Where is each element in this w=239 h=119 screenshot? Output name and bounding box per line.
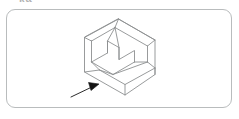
- viewing-direction-arrow: [71, 83, 99, 98]
- rim-thickness-left: [85, 38, 92, 42]
- screenshot-root: — ка—: [0, 0, 239, 119]
- lower-sloped-face-crest: [113, 62, 148, 75]
- inner-cavity-zigzag: [92, 41, 135, 62]
- front-bottom-face-edge-left: [85, 70, 100, 72]
- isometric-figure: [0, 0, 239, 119]
- rim-thickness-right: [148, 40, 156, 46]
- slope-edge-right: [148, 62, 156, 68]
- top-face-back-rim-right: [119, 19, 156, 40]
- isometric-figure-svg: [0, 0, 239, 119]
- partition-top-right: [115, 28, 119, 48]
- arrow-head: [89, 83, 100, 91]
- top-rim-inner-right: [115, 28, 148, 47]
- lower-sloped-face-front: [100, 68, 156, 85]
